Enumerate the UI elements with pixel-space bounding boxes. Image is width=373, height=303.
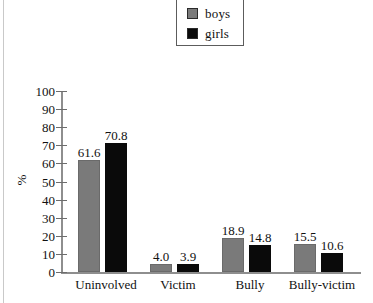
bar-chart: 100 90 80 70 60 50 40 30 20 10 0 % 61.6 …	[0, 0, 373, 303]
bar-uninvolved-girls	[105, 143, 127, 272]
y-axis-title: %	[14, 169, 30, 191]
bar-bully-girls	[249, 245, 271, 272]
y-tick-100	[56, 91, 67, 92]
y-tick-50	[56, 182, 67, 183]
y-tick-label-70: 70	[9, 139, 55, 152]
y-tick-label-100: 100	[9, 85, 55, 98]
y-tick-label-20: 20	[9, 230, 55, 243]
x-axis-line	[61, 272, 361, 274]
y-tick-0	[56, 272, 67, 273]
y-tick-20	[56, 236, 67, 237]
y-tick-10	[56, 254, 67, 255]
bar-uninvolved-boys	[78, 160, 100, 272]
y-tick-70	[56, 145, 67, 146]
value-label-victim-girls: 3.9	[168, 250, 208, 263]
value-label-uninvolved-boys: 61.6	[69, 146, 109, 159]
y-tick-label-40: 40	[9, 194, 55, 207]
bar-victim-girls	[177, 264, 199, 272]
y-tick-label-90: 90	[9, 103, 55, 116]
y-tick-30	[56, 218, 67, 219]
y-tick-label-30: 30	[9, 212, 55, 225]
y-tick-80	[56, 127, 67, 128]
bar-bullyvictim-girls	[321, 253, 343, 272]
bar-victim-boys	[150, 264, 172, 272]
y-tick-label-10: 10	[9, 248, 55, 261]
y-tick-90	[56, 109, 67, 110]
y-tick-40	[56, 200, 67, 201]
value-label-bullyvictim-girls: 10.6	[312, 239, 352, 252]
value-label-bully-girls: 14.8	[240, 231, 280, 244]
category-label-bullyvictim: Bully-victim	[262, 278, 373, 292]
value-label-uninvolved-girls: 70.8	[96, 129, 136, 142]
y-tick-60	[56, 163, 67, 164]
y-tick-label-80: 80	[9, 121, 55, 134]
